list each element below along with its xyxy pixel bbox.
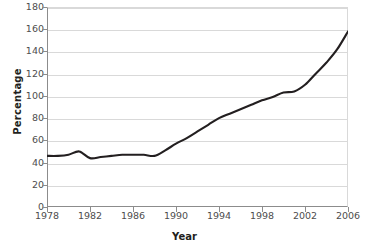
x-tick-mark bbox=[133, 207, 134, 212]
y-tick-label: 180 bbox=[4, 2, 44, 12]
y-tick-mark bbox=[42, 118, 47, 119]
series-line bbox=[47, 7, 348, 207]
x-tick-label: 2002 bbox=[285, 211, 325, 221]
y-tick-mark bbox=[42, 7, 47, 8]
x-tick-mark bbox=[348, 207, 349, 212]
x-tick-mark bbox=[176, 207, 177, 212]
y-tick-label: 80 bbox=[4, 113, 44, 123]
y-tick-mark bbox=[42, 140, 47, 141]
x-tick-mark bbox=[219, 207, 220, 212]
data-line bbox=[47, 31, 348, 158]
x-tick-label: 2006 bbox=[328, 211, 365, 221]
x-axis-title: Year bbox=[0, 231, 355, 242]
y-tick-label: 100 bbox=[4, 91, 44, 101]
x-tick-mark bbox=[90, 207, 91, 212]
x-tick-mark bbox=[47, 207, 48, 212]
x-tick-label: 1994 bbox=[199, 211, 239, 221]
y-tick-label: 60 bbox=[4, 135, 44, 145]
y-tick-label: 160 bbox=[4, 24, 44, 34]
x-tick-label: 1978 bbox=[27, 211, 67, 221]
y-tick-label: 120 bbox=[4, 69, 44, 79]
x-tick-label: 1982 bbox=[70, 211, 110, 221]
y-tick-label: 40 bbox=[4, 158, 44, 168]
x-tick-label: 1998 bbox=[242, 211, 282, 221]
y-tick-mark bbox=[42, 29, 47, 30]
y-tick-label: 20 bbox=[4, 180, 44, 190]
y-tick-label: 140 bbox=[4, 46, 44, 56]
x-tick-mark bbox=[305, 207, 306, 212]
y-tick-mark bbox=[42, 163, 47, 164]
x-tick-mark bbox=[262, 207, 263, 212]
x-tick-label: 1986 bbox=[113, 211, 153, 221]
y-tick-mark bbox=[42, 51, 47, 52]
y-tick-mark bbox=[42, 185, 47, 186]
y-tick-mark bbox=[42, 74, 47, 75]
y-tick-mark bbox=[42, 96, 47, 97]
x-tick-label: 1990 bbox=[156, 211, 196, 221]
